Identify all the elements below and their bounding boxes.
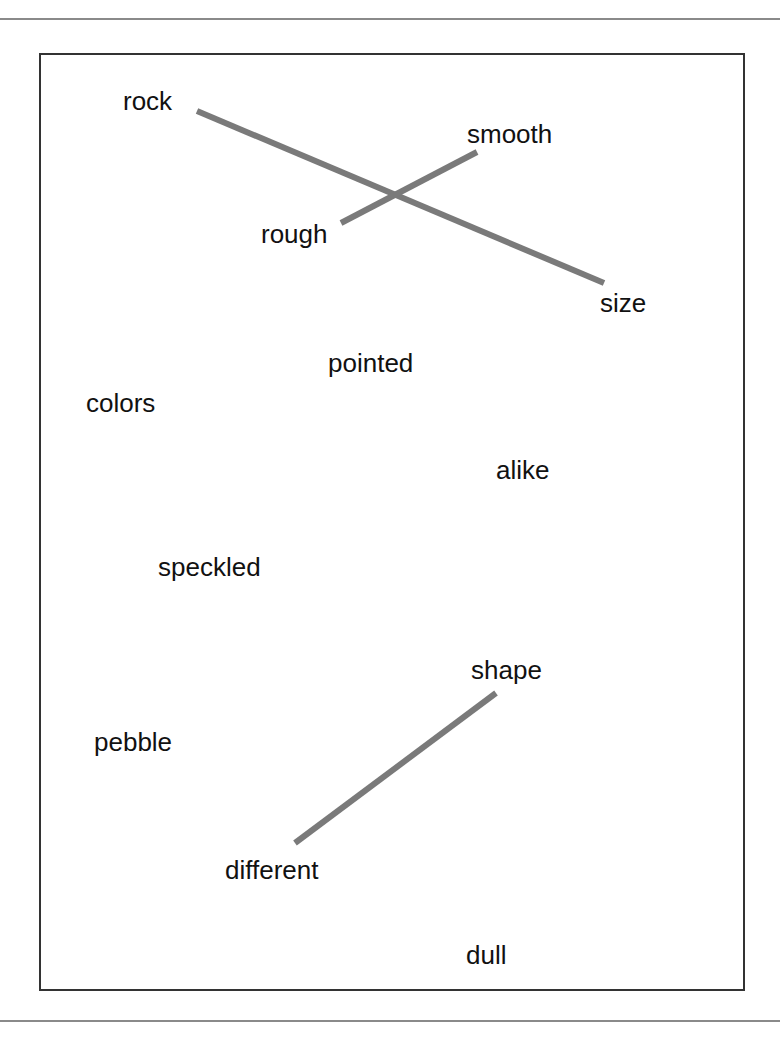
worksheet-frame: [39, 53, 745, 991]
word-size[interactable]: size: [600, 290, 646, 316]
word-colors[interactable]: colors: [86, 390, 155, 416]
word-different[interactable]: different: [225, 857, 318, 883]
word-dull[interactable]: dull: [466, 942, 506, 968]
word-alike[interactable]: alike: [496, 457, 549, 483]
word-pointed[interactable]: pointed: [328, 350, 413, 376]
word-smooth[interactable]: smooth: [467, 121, 552, 147]
word-speckled[interactable]: speckled: [158, 554, 261, 580]
top-divider: [0, 18, 780, 20]
word-shape[interactable]: shape: [471, 657, 542, 683]
bottom-divider: [0, 1020, 780, 1022]
word-rough[interactable]: rough: [261, 221, 328, 247]
word-pebble[interactable]: pebble: [94, 729, 172, 755]
word-rock[interactable]: rock: [123, 88, 172, 114]
